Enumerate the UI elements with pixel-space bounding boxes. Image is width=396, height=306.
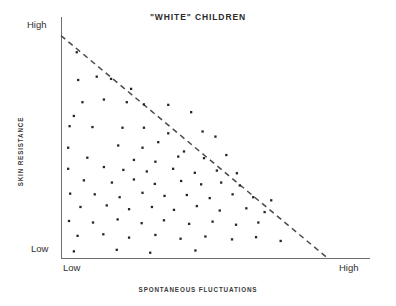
data-point	[116, 249, 118, 251]
data-point	[183, 150, 185, 152]
data-point	[257, 221, 259, 223]
data-point	[216, 169, 218, 171]
data-point	[121, 127, 123, 129]
data-point	[79, 206, 81, 208]
data-point	[68, 125, 70, 127]
data-point	[77, 79, 79, 81]
data-point	[143, 103, 145, 105]
chart-title: "WHITE" CHILDREN	[0, 12, 396, 22]
data-point	[167, 132, 169, 134]
data-point	[163, 195, 165, 197]
data-point	[179, 238, 181, 240]
data-point	[116, 218, 118, 220]
data-point	[141, 147, 143, 149]
x-axis-tick-low: Low	[63, 262, 80, 273]
data-point	[203, 157, 205, 159]
data-point	[235, 224, 237, 226]
x-axis-title: SPONTANEOUS FLUCTUATIONS	[0, 286, 396, 293]
data-point	[157, 141, 159, 143]
data-point	[73, 250, 75, 252]
data-point	[141, 192, 143, 194]
data-point	[252, 196, 254, 198]
data-point	[126, 101, 128, 103]
data-point	[96, 76, 98, 78]
data-point	[130, 88, 132, 90]
data-point	[106, 204, 108, 206]
data-point	[204, 235, 206, 237]
data-point	[133, 159, 135, 161]
y-axis-line	[61, 17, 62, 259]
data-point	[102, 233, 104, 235]
data-point	[83, 179, 85, 181]
data-point	[154, 183, 156, 185]
data-point	[110, 78, 112, 80]
data-point	[69, 193, 71, 195]
data-point	[236, 172, 238, 174]
data-point	[81, 101, 83, 103]
data-point	[214, 135, 216, 137]
data-point	[128, 208, 130, 210]
data-point	[151, 206, 153, 208]
data-point	[172, 168, 174, 170]
data-point	[68, 220, 70, 222]
data-point	[146, 170, 148, 172]
data-point	[220, 181, 222, 183]
data-point	[186, 194, 188, 196]
data-point	[167, 104, 169, 106]
x-axis-line	[61, 258, 370, 259]
y-axis-title: SKIN RESISTANCE	[17, 92, 24, 212]
data-point	[117, 144, 119, 146]
data-point	[91, 126, 93, 128]
data-point	[196, 205, 198, 207]
data-point	[255, 236, 257, 238]
data-point	[67, 147, 69, 149]
data-point	[180, 180, 182, 182]
data-point	[111, 181, 113, 183]
data-point	[190, 111, 192, 113]
data-point	[128, 236, 130, 238]
data-point	[141, 222, 143, 224]
data-point	[270, 199, 272, 201]
data-point	[219, 209, 221, 211]
data-point	[103, 98, 105, 100]
data-point	[76, 51, 78, 53]
data-point	[73, 115, 75, 117]
upper-boundary-dashed-line	[61, 36, 327, 258]
data-point	[194, 172, 196, 174]
data-point	[92, 221, 94, 223]
data-point	[280, 240, 282, 242]
data-point	[200, 183, 202, 185]
x-axis-tick-high: High	[339, 262, 359, 273]
data-point	[188, 223, 190, 225]
y-axis-tick-high: High	[27, 19, 47, 30]
data-point	[239, 184, 241, 186]
data-point	[245, 207, 247, 209]
data-point	[209, 197, 211, 199]
data-point	[201, 130, 203, 132]
y-axis-tick-low: Low	[31, 243, 48, 254]
chart-page: "WHITE" CHILDREN High Low Low High SKIN …	[0, 0, 396, 306]
data-point	[94, 193, 96, 195]
data-point	[225, 154, 227, 156]
data-point	[211, 220, 213, 222]
data-point	[122, 169, 124, 171]
scatter-plot-area	[0, 0, 396, 306]
data-point	[263, 211, 265, 213]
data-point	[163, 219, 165, 221]
data-point	[103, 166, 105, 168]
data-point	[154, 234, 156, 236]
data-point	[67, 168, 69, 170]
data-point	[194, 249, 196, 251]
data-point	[149, 252, 151, 254]
data-point	[173, 209, 175, 211]
data-point	[86, 157, 88, 159]
data-point	[118, 196, 120, 198]
data-point	[231, 238, 233, 240]
data-point-group	[67, 51, 282, 254]
data-point	[133, 178, 135, 180]
data-point	[143, 127, 145, 129]
data-point	[231, 193, 233, 195]
data-point	[177, 155, 179, 157]
data-point	[154, 161, 156, 163]
data-point	[76, 235, 78, 237]
